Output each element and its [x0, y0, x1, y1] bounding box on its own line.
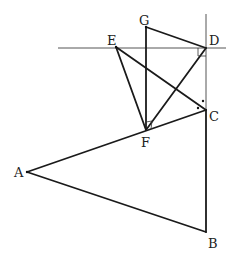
label-A: A: [13, 165, 24, 180]
segment-EC: [116, 47, 206, 110]
segment-EF: [116, 47, 146, 130]
label-D: D: [209, 33, 219, 48]
label-F: F: [141, 135, 150, 150]
angle-dot-C-1: [202, 100, 204, 102]
angle-dot-C-2: [197, 107, 199, 109]
segment-FD: [146, 48, 206, 130]
point-A: [26, 171, 28, 173]
geometry-diagram: G E D C F A B: [0, 0, 241, 266]
label-E: E: [107, 33, 117, 48]
label-B: B: [208, 236, 218, 251]
label-C: C: [209, 109, 219, 124]
segment-AB: [27, 172, 206, 232]
label-G: G: [139, 13, 149, 28]
segment-GD: [146, 27, 206, 48]
segment-CA: [27, 110, 206, 172]
